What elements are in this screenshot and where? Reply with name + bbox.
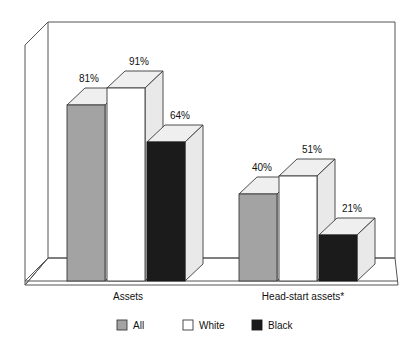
- value-label-assets-white: 91%: [129, 56, 149, 67]
- bar-front-face: [67, 105, 105, 281]
- bar-side-face: [185, 125, 203, 281]
- value-label-assets-black: 64%: [170, 110, 190, 121]
- bar-front-face: [147, 142, 185, 281]
- bar-front-face: [107, 88, 145, 281]
- legend-label-all: All: [133, 320, 144, 331]
- legend: All White Black: [117, 320, 293, 331]
- bar-chart-svg: 81% 91% 64% 40% 51% 21% Assets Head-star…: [0, 0, 418, 346]
- value-label-assets-all: 81%: [79, 73, 99, 84]
- category-label-assets: Assets: [113, 291, 143, 302]
- legend-item-white[interactable]: White: [183, 320, 225, 331]
- legend-label-black: Black: [268, 320, 293, 331]
- bar-assets-black[interactable]: [147, 125, 203, 281]
- legend-swatch-gray-icon: [117, 320, 127, 330]
- value-label-headstart-black: 21%: [342, 203, 362, 214]
- legend-item-all[interactable]: All: [117, 320, 144, 331]
- legend-label-white: White: [199, 320, 225, 331]
- bar-front-face: [279, 176, 317, 281]
- bar-headstart-black[interactable]: [319, 218, 375, 281]
- category-label-headstart: Head-start assets*: [262, 291, 344, 302]
- value-label-headstart-all: 40%: [252, 162, 272, 173]
- left-wall: [25, 22, 48, 285]
- value-label-headstart-white: 51%: [302, 144, 322, 155]
- legend-swatch-white-icon: [183, 320, 193, 330]
- legend-item-black[interactable]: Black: [252, 320, 293, 331]
- bar-front-face: [239, 194, 277, 281]
- chart-container: 81% 91% 64% 40% 51% 21% Assets Head-star…: [0, 0, 418, 346]
- bar-front-face: [319, 235, 357, 281]
- legend-swatch-black-icon: [252, 320, 262, 330]
